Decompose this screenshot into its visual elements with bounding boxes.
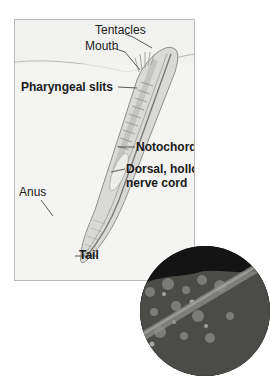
label-tail: Tail [79, 249, 99, 262]
label-notochord: Notochord [136, 141, 195, 154]
diagram-panel: Tentacles Mouth Pharyngeal slits Notocho… [14, 19, 195, 281]
label-dorsal-nerve-cord-line2: nerve cord [126, 177, 187, 190]
label-tentacles: Tentacles [95, 24, 146, 37]
label-dorsal-nerve-cord-line1: Dorsal, hollow [126, 163, 195, 176]
lancelet-photo [140, 246, 270, 376]
label-anus: Anus [19, 186, 46, 199]
label-mouth: Mouth [85, 40, 118, 53]
gravel-photo-illustration [140, 246, 270, 376]
label-pharyngeal-slits: Pharyngeal slits [21, 81, 113, 94]
